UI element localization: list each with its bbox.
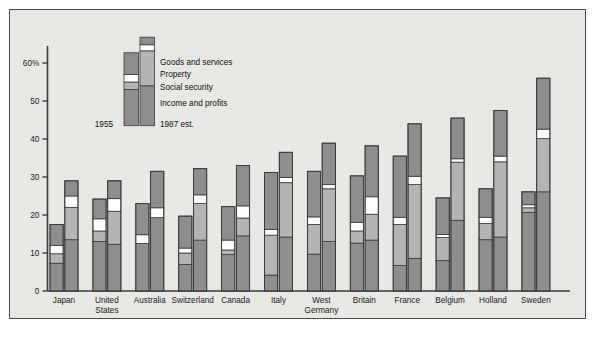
bar-segment-goods-and-services: [136, 204, 149, 235]
bar-belgium-1955: [436, 198, 449, 291]
bar-segment-income-and-profits: [393, 266, 406, 291]
legend-year-1987: 1987 est.: [160, 120, 194, 129]
x-axis-category-label: Britain: [353, 296, 377, 305]
bar-segment-income-and-profits: [194, 240, 207, 291]
bar-switzerland-1955: [179, 216, 192, 291]
bar-belgium-1987: [451, 118, 464, 291]
bar-segment-property: [436, 234, 449, 237]
legend-year-1955: 1955: [95, 120, 114, 129]
bar-segment-social-security: [265, 235, 278, 275]
bar-segment-goods-and-services: [151, 171, 164, 207]
bar-segment-income-and-profits: [136, 244, 149, 292]
bar-segment-social-security: [350, 231, 363, 243]
bar-segment-goods-and-services: [222, 207, 235, 240]
bar-segment-social-security: [93, 231, 106, 242]
bar-segment-property: [279, 177, 292, 182]
legend-swatch-goods-and-services: [124, 53, 139, 75]
legend-swatch-property: [140, 45, 155, 51]
bar-segment-social-security: [307, 225, 320, 255]
x-axis-labels: JapanUnitedStatesAustraliaSwitzerlandCan…: [53, 296, 551, 315]
bar-segment-property: [408, 176, 421, 184]
bar-segment-goods-and-services: [307, 171, 320, 217]
bar-segment-goods-and-services: [322, 143, 335, 184]
bar-segment-income-and-profits: [50, 263, 63, 291]
bar-segment-goods-and-services: [236, 166, 249, 206]
bar-holland-1987: [494, 111, 507, 292]
bar-segment-goods-and-services: [279, 152, 292, 177]
chart-legend: Goods and servicesPropertySocial securit…: [95, 37, 233, 128]
bar-segment-goods-and-services: [451, 118, 464, 159]
y-tick-label: 20: [30, 211, 40, 220]
bar-segment-goods-and-services: [494, 111, 507, 157]
bar-france-1955: [393, 156, 406, 291]
bar-segment-goods-and-services: [479, 189, 492, 218]
bar-segment-social-security: [408, 185, 421, 259]
legend-sample-bar-1955: [124, 53, 139, 126]
bar-segment-income-and-profits: [222, 255, 235, 291]
bar-segment-property: [194, 195, 207, 204]
bar-segment-income-and-profits: [451, 220, 464, 291]
bar-segment-goods-and-services: [393, 156, 406, 217]
bar-segment-income-and-profits: [537, 192, 550, 291]
y-tick-label: 30: [30, 173, 40, 182]
bar-segment-goods-and-services: [436, 198, 449, 234]
bar-segment-income-and-profits: [365, 240, 378, 291]
bar-segment-income-and-profits: [522, 212, 535, 291]
bar-segment-social-security: [451, 162, 464, 220]
bar-canada-1987: [236, 166, 249, 291]
bar-segment-property: [537, 129, 550, 139]
bar-segment-goods-and-services: [537, 78, 550, 129]
bar-segment-goods-and-services: [194, 169, 207, 195]
x-axis-category-label: Canada: [221, 296, 250, 305]
bar-segment-property: [108, 199, 121, 212]
bar-sweden-1955: [522, 192, 535, 291]
bar-segment-social-security: [479, 223, 492, 239]
bar-segment-income-and-profits: [279, 237, 292, 291]
bar-segment-social-security: [522, 208, 535, 213]
bar-australia-1987: [151, 171, 164, 291]
bar-segment-social-security: [194, 204, 207, 240]
bar-segment-social-security: [393, 225, 406, 266]
bar-britain-1987: [365, 146, 378, 291]
bar-segment-income-and-profits: [151, 218, 164, 291]
bar-segment-goods-and-services: [93, 199, 106, 219]
bar-segment-income-and-profits: [350, 243, 363, 291]
bar-australia-1955: [136, 204, 149, 291]
bar-canada-1955: [222, 207, 235, 291]
y-tick-label: 10: [30, 249, 40, 258]
bar-chart: 0102030405060% JapanUnitedStatesAustrali…: [0, 0, 595, 348]
bar-segment-social-security: [322, 189, 335, 242]
bar-segment-income-and-profits: [436, 261, 449, 291]
bar-segment-goods-and-services: [179, 216, 192, 248]
bar-italy-1987: [279, 152, 292, 291]
x-axis-category-label: Japan: [53, 296, 76, 305]
bar-segment-property: [136, 235, 149, 244]
bar-italy-1955: [265, 172, 278, 291]
x-axis-category-label: Holland: [479, 296, 507, 305]
bar-segment-property: [151, 208, 164, 218]
bar-segment-social-security: [436, 237, 449, 260]
bar-segment-social-security: [279, 183, 292, 237]
bar-holland-1955: [479, 189, 492, 291]
bar-segment-goods-and-services: [522, 192, 535, 205]
bar-segment-property: [494, 156, 507, 162]
y-tick-label: 40: [30, 135, 40, 144]
legend-swatch-income-and-profits: [140, 86, 155, 126]
bar-segment-goods-and-services: [50, 225, 63, 246]
bar-segment-income-and-profits: [322, 242, 335, 291]
legend-label: Property: [160, 70, 192, 79]
bar-segment-social-security: [236, 218, 249, 236]
legend-swatch-property: [124, 74, 139, 82]
bar-segment-income-and-profits: [408, 258, 421, 291]
legend-swatch-goods-and-services: [140, 37, 155, 45]
bar-segment-goods-and-services: [65, 181, 78, 196]
x-axis-category-label: States: [95, 306, 118, 315]
bar-segment-income-and-profits: [93, 242, 106, 291]
bar-united-states-1987: [108, 181, 121, 291]
bar-west-germany-1955: [307, 171, 320, 291]
bar-segment-social-security: [50, 254, 63, 264]
bar-japan-1987: [65, 181, 78, 291]
bar-segment-income-and-profits: [108, 244, 121, 291]
bar-segment-social-security: [222, 250, 235, 255]
bar-segment-income-and-profits: [494, 237, 507, 291]
